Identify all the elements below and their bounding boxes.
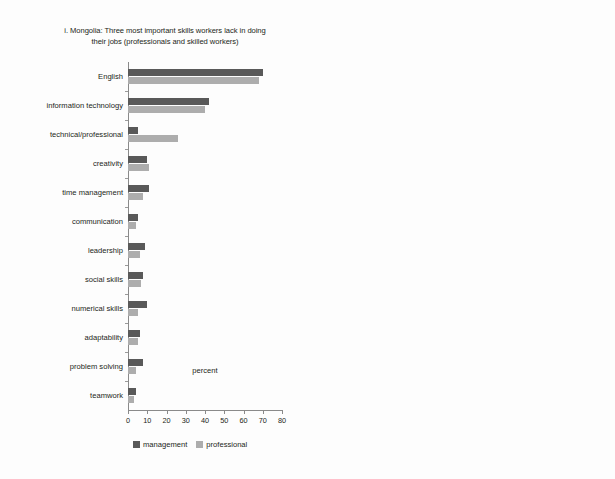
- x-tick: [263, 410, 264, 414]
- category-label: English: [98, 72, 123, 82]
- x-tick: [205, 410, 206, 414]
- x-tick: [282, 410, 283, 414]
- y-minor-tick: [125, 236, 129, 237]
- x-tick: [186, 410, 187, 414]
- x-tick: [167, 410, 168, 414]
- chart-title-mongolia: i. Mongolia: Three most important skills…: [40, 26, 290, 47]
- category-label: numerical skills: [72, 304, 123, 314]
- bar-management: [128, 69, 263, 77]
- legend-swatch-management: [133, 441, 140, 448]
- bar-management: [128, 301, 147, 309]
- category-label: information technology: [47, 101, 123, 111]
- x-axis-title-mongolia: percent: [128, 366, 282, 375]
- y-minor-tick: [125, 352, 129, 353]
- category-label: leadership: [88, 246, 123, 256]
- y-minor-tick: [125, 381, 129, 382]
- bar-professional: [128, 396, 134, 404]
- chart-page: i. Mongolia: Three most important skills…: [0, 0, 615, 479]
- legend-item-management: management: [133, 440, 187, 449]
- y-minor-tick: [125, 120, 129, 121]
- bar-management: [128, 359, 143, 367]
- bar-management: [128, 243, 145, 251]
- legend-label-professional: professional: [206, 440, 247, 449]
- x-tick: [128, 410, 129, 414]
- chart-panel-cambodia: j. Cambodia: Skills and attributes that …: [330, 0, 615, 479]
- y-minor-tick: [125, 265, 129, 266]
- bar-professional: [128, 106, 205, 114]
- category-label: problem solving: [70, 362, 123, 372]
- legend-label-management: management: [143, 440, 187, 449]
- plot-area-mongolia: 01020304050607080 Englishinformation tec…: [128, 62, 282, 410]
- bar-professional: [128, 309, 138, 317]
- bar-professional: [128, 222, 136, 230]
- bar-management: [128, 214, 138, 222]
- x-tick: [244, 410, 245, 414]
- category-label: creativity: [93, 159, 123, 169]
- legend-swatch-professional: [196, 441, 203, 448]
- bar-professional: [128, 193, 143, 201]
- bar-professional: [128, 135, 178, 143]
- category-label: teamwork: [90, 391, 123, 401]
- chart-title-line2: their jobs (professionals and skilled wo…: [91, 37, 238, 46]
- bar-professional: [128, 338, 138, 346]
- x-tick-label: 80: [270, 416, 294, 425]
- bar-management: [128, 185, 149, 193]
- category-label: technical/professional: [50, 130, 123, 140]
- chart-title-line1: i. Mongolia: Three most important skills…: [64, 26, 265, 35]
- bar-professional: [128, 164, 149, 172]
- bar-professional: [128, 280, 141, 288]
- x-tick: [147, 410, 148, 414]
- chart-legend: management professional: [133, 440, 247, 449]
- y-minor-tick: [125, 91, 129, 92]
- y-minor-tick: [125, 323, 129, 324]
- bar-management: [128, 98, 209, 106]
- y-minor-tick: [125, 149, 129, 150]
- category-label: communication: [72, 217, 123, 227]
- category-label: social skills: [85, 275, 123, 285]
- bar-professional: [128, 77, 259, 85]
- bar-management: [128, 388, 136, 396]
- chart-panel-mongolia: i. Mongolia: Three most important skills…: [0, 0, 330, 479]
- bar-management: [128, 127, 138, 135]
- y-minor-tick: [125, 178, 129, 179]
- bar-professional: [128, 251, 140, 259]
- category-label: time management: [62, 188, 123, 198]
- y-minor-tick: [125, 294, 129, 295]
- y-minor-tick: [125, 207, 129, 208]
- category-label: adaptability: [85, 333, 123, 343]
- bar-management: [128, 272, 143, 280]
- legend-item-professional: professional: [196, 440, 247, 449]
- bar-management: [128, 156, 147, 164]
- bar-management: [128, 330, 140, 338]
- x-tick: [224, 410, 225, 414]
